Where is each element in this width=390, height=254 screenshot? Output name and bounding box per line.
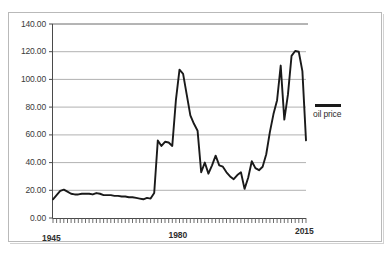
oil-price-line-chart bbox=[0, 0, 390, 254]
y-axis-tick-label: 0.00 bbox=[6, 213, 46, 223]
y-axis-tick-label: 20.00 bbox=[6, 185, 46, 195]
oil-price-series-line bbox=[53, 51, 306, 199]
y-axis-tick-label: 60.00 bbox=[6, 129, 46, 139]
y-axis-tick-label: 100.00 bbox=[6, 74, 46, 84]
gridlines bbox=[53, 24, 308, 190]
legend-label-oil-price: oil price bbox=[313, 109, 373, 119]
x-axis-tick-label: 1980 bbox=[169, 230, 188, 240]
y-axis-tick-label: 80.00 bbox=[6, 102, 46, 112]
chart-container: 140.00120.00100.0080.0060.0040.0020.000.… bbox=[0, 0, 390, 254]
y-axis-tick-label: 120.00 bbox=[6, 46, 46, 56]
y-axis-tick-label: 40.00 bbox=[6, 157, 46, 167]
chart-legend: oil price bbox=[313, 104, 373, 119]
x-axis-tick-label: 2015 bbox=[295, 226, 314, 236]
legend-color-swatch-oil-price bbox=[315, 104, 341, 107]
x-axis-tick-label: 1945 bbox=[42, 233, 61, 243]
y-axis-tick-label: 140.00 bbox=[6, 19, 46, 29]
